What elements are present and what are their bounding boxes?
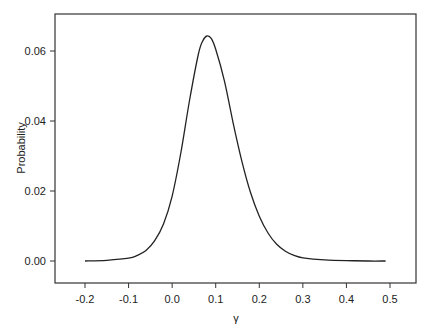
x-tick-label: 0.0 [164,293,179,305]
x-tick-label: 0.5 [382,293,397,305]
x-tick-label: 0.1 [208,293,223,305]
x-tick-label: 0.3 [295,293,310,305]
x-tick-label: 0.4 [339,293,354,305]
plot-frame [55,14,416,283]
y-axis: 0.000.020.040.06 [25,45,55,267]
x-axis-label: γ [233,312,239,324]
y-tick-label: 0.00 [25,255,46,267]
y-tick-label: 0.02 [25,185,46,197]
x-tick-label: -0.1 [119,293,138,305]
y-tick-label: 0.04 [25,115,46,127]
chart-canvas: 0.000.020.040.06 -0.2-0.10.00.10.20.30.4… [0,0,429,332]
y-axis-label: Probability [15,122,27,174]
x-axis: -0.2-0.10.00.10.20.30.40.5 [76,283,398,305]
y-tick-label: 0.06 [25,45,46,57]
x-tick-label: 0.2 [252,293,267,305]
x-tick-label: -0.2 [76,293,95,305]
density-curve [85,36,386,261]
